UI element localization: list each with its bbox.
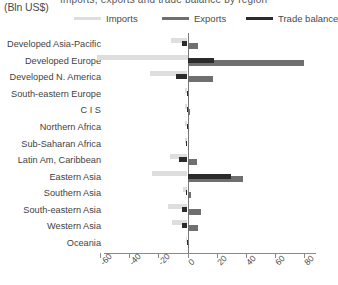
bar-exports	[188, 159, 197, 165]
category-label: Oceania	[0, 238, 101, 248]
axis-units-label: (Bln US$)	[4, 1, 49, 13]
bar-trade-balance	[179, 157, 187, 162]
chart-legend: Imports Exports Trade balance	[74, 12, 318, 25]
bar-trade-balance	[176, 74, 188, 79]
category-label: Northern Africa	[0, 122, 101, 132]
bar-trade-balance	[186, 141, 187, 146]
legend-label-trade-balance: Trade balance	[278, 13, 338, 24]
legend-item-trade-balance: Trade balance	[246, 12, 338, 25]
bar-exports	[188, 209, 202, 215]
legend-item-exports: Exports	[162, 12, 226, 25]
legend-swatch-exports	[162, 17, 189, 20]
axis-tick-label: 0	[186, 257, 196, 267]
bar-trade-balance	[187, 124, 188, 129]
bar-trade-balance	[186, 190, 187, 195]
chart-title: Imports, exports and trade balance by re…	[60, 0, 300, 5]
category-label: Latin Am, Caribbean	[0, 155, 101, 165]
bar-trade-balance	[182, 41, 188, 46]
bar-trade-balance	[182, 223, 187, 228]
bars-area	[104, 33, 320, 255]
bar-exports	[188, 225, 198, 231]
category-label: C I S	[0, 105, 101, 115]
category-label: Developed N. America	[0, 72, 101, 82]
category-label: Western Asia	[0, 221, 101, 231]
bar-imports	[97, 55, 187, 60]
bar-trade-balance	[187, 107, 188, 112]
category-label: Developed Asia-Pacific	[0, 39, 101, 49]
plot-area: Developed Asia-PacificDeveloped EuropeDe…	[0, 33, 320, 255]
value-axis: -60-40-20020406080	[104, 253, 320, 285]
legend-label-imports: Imports	[106, 13, 138, 24]
bar-trade-balance	[187, 240, 188, 245]
legend-item-imports: Imports	[74, 12, 138, 25]
category-label: Southern Asia	[0, 188, 101, 198]
legend-swatch-trade-balance	[246, 17, 273, 20]
bar-exports	[188, 126, 189, 132]
category-label: Sub-Saharan Africa	[0, 139, 101, 149]
bar-exports	[188, 109, 190, 115]
bar-exports	[188, 143, 190, 149]
bar-exports	[188, 192, 191, 198]
bar-trade-balance	[187, 91, 188, 96]
bar-exports	[188, 43, 198, 49]
bar-trade-balance	[188, 58, 214, 63]
category-label: South-eastern Asia	[0, 205, 101, 215]
category-axis: Developed Asia-PacificDeveloped EuropeDe…	[0, 33, 104, 255]
legend-swatch-imports	[74, 17, 101, 20]
category-label: Developed Europe	[0, 56, 101, 66]
legend-label-exports: Exports	[194, 13, 226, 24]
bar-trade-balance	[182, 207, 188, 212]
bar-trade-balance	[188, 174, 232, 179]
bar-exports	[188, 93, 190, 99]
category-label: Eastern Asia	[0, 172, 101, 182]
bar-exports	[188, 76, 213, 82]
category-label: South-eastern Europe	[0, 89, 101, 99]
bar-imports	[152, 171, 188, 176]
